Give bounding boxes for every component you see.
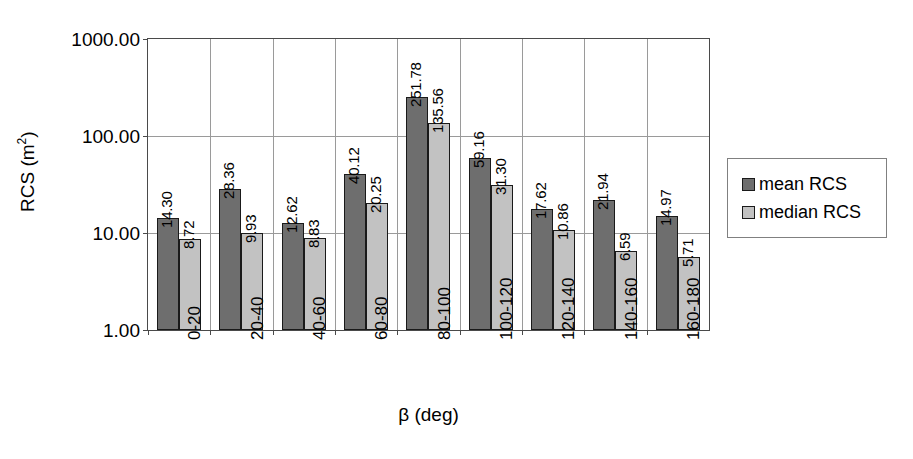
bar-mean — [531, 209, 553, 330]
rcs-bar-chart: RCS (m2) 1.0010.00100.001000.00 14.308.7… — [0, 0, 913, 459]
bar-mean — [656, 216, 678, 330]
y-axis-tick-label: 1000.00 — [10, 30, 140, 49]
legend-item-label: median RCS — [759, 202, 861, 223]
y-axis-tick-label: 100.00 — [10, 127, 140, 146]
legend-item-label: mean RCS — [759, 174, 847, 195]
bar-group: 40.1220.25 — [335, 39, 397, 330]
bar-value-label: 6.59 — [617, 232, 632, 260]
y-axis-tick-label: 10.00 — [10, 224, 140, 243]
bar-value-label: 14.30 — [159, 191, 174, 228]
bar-value-label: 21.94 — [595, 173, 610, 210]
bar-value-label: 10.86 — [555, 203, 570, 240]
bar-value-label: 135.56 — [430, 88, 445, 133]
bar-group: 12.628.83 — [273, 39, 335, 330]
bar-value-label: 251.78 — [408, 62, 423, 107]
bar-mean — [406, 97, 428, 330]
bar-group: 28.369.93 — [210, 39, 272, 330]
bar-value-label: 9.93 — [243, 215, 258, 243]
y-axis-tick-label: 1.00 — [10, 321, 140, 340]
bar-mean — [282, 223, 304, 330]
chart-legend: mean RCSmedian RCS — [727, 158, 887, 238]
bar-value-label: 17.62 — [533, 183, 548, 220]
bar-value-label: 8.83 — [306, 220, 321, 248]
x-axis-tick-label: 0-20 — [186, 306, 203, 340]
bar-group: 14.308.72 — [148, 39, 210, 330]
bar-value-label: 28.36 — [221, 163, 236, 200]
bar-mean — [344, 174, 366, 330]
bar-value-label: 59.16 — [471, 132, 486, 169]
x-axis-tickmark — [460, 330, 461, 335]
legend-swatch-icon — [742, 206, 755, 219]
x-axis-tickmark — [210, 330, 211, 335]
legend-item: mean RCS — [742, 170, 880, 198]
bar-value-label: 40.12 — [346, 148, 361, 185]
bar-value-label: 8.72 — [181, 220, 196, 248]
x-axis-tickmark — [584, 330, 585, 335]
x-axis-tickmark — [522, 330, 523, 335]
bar-mean — [593, 200, 615, 330]
x-axis-tick-label: 140-160 — [623, 278, 640, 340]
x-axis-tick-label: 60-80 — [373, 297, 390, 340]
bar-value-label: 20.25 — [368, 177, 383, 214]
bar-mean — [469, 158, 491, 330]
bar-value-label: 31.30 — [493, 158, 508, 195]
x-axis-tick-label: 20-40 — [249, 297, 266, 340]
x-axis-title: β (deg) — [147, 404, 710, 426]
bar-mean — [219, 189, 241, 330]
x-axis-tickmark — [647, 330, 648, 335]
legend-item: median RCS — [742, 198, 880, 226]
bar-value-label: 14.97 — [658, 189, 673, 226]
legend-swatch-icon — [742, 178, 755, 191]
bar-value-label: 12.62 — [284, 197, 299, 234]
x-axis-tickmark — [273, 330, 274, 335]
x-axis-tickmark — [397, 330, 398, 335]
x-axis-tick-label: 40-60 — [311, 297, 328, 340]
y-axis-tick-labels: 1.0010.00100.001000.00 — [0, 0, 140, 459]
x-axis-tickmark — [335, 330, 336, 335]
x-axis-tickmark — [148, 330, 149, 335]
x-axis-tick-label: 120-140 — [560, 278, 577, 340]
x-axis-tick-label: 100-120 — [498, 278, 515, 340]
bar-mean — [157, 218, 179, 330]
x-axis-tick-label: 80-100 — [436, 287, 453, 340]
x-axis-tick-label: 160-180 — [685, 278, 702, 340]
bar-value-label: 5.71 — [680, 238, 695, 266]
